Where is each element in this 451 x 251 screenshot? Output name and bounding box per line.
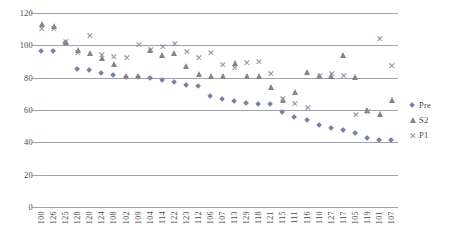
x-axis-tick-label: 116	[304, 211, 312, 224]
x-axis-tick-label: 110	[316, 211, 324, 224]
x-axis-tick-label: 100	[38, 211, 46, 224]
x-axis-tick-label: 109	[135, 211, 143, 224]
x-axis-tick-label: 107	[388, 211, 396, 224]
x-axis-tick-label: 114	[159, 211, 167, 224]
cross-marker	[219, 61, 227, 69]
gridline	[36, 45, 398, 46]
x-axis-tick-label: 118	[255, 211, 263, 224]
cross-marker	[195, 54, 203, 62]
triangle-marker	[340, 52, 346, 58]
x-axis-tick-label: 106	[207, 211, 215, 224]
diamond-marker	[219, 96, 225, 102]
triangle-marker	[111, 61, 117, 67]
diamond-marker	[409, 102, 415, 108]
cross-marker	[86, 32, 94, 40]
cross-marker	[159, 43, 167, 51]
cross-marker	[267, 70, 275, 78]
gridline	[36, 142, 398, 143]
triangle-marker	[208, 73, 214, 79]
cross-marker	[50, 25, 58, 33]
x-axis-tick-label: 125	[62, 211, 70, 224]
legend-item-p1[interactable]: P1	[408, 128, 451, 143]
x-axis-tick-label: 101	[376, 211, 384, 224]
scatter-chart: 020406080100120 100126125128120124108102…	[0, 0, 451, 251]
triangle-marker	[377, 111, 383, 117]
x-axis-tick-label: 102	[123, 211, 131, 224]
diamond-marker	[231, 98, 237, 104]
x-axis-tick-label: 111	[291, 211, 299, 224]
diamond-marker	[207, 93, 213, 99]
triangle-marker	[171, 50, 177, 56]
y-axis-tick-label: 0	[0, 203, 33, 212]
gridline	[36, 13, 398, 14]
diamond-marker	[38, 48, 44, 54]
triangle-marker	[304, 69, 310, 75]
cross-marker	[171, 40, 179, 48]
x-axis-tick-label: 126	[50, 211, 58, 224]
diamond-marker	[86, 67, 92, 73]
diamond-marker	[316, 122, 322, 128]
cross-marker	[98, 51, 106, 59]
legend-label: Pre	[419, 101, 431, 110]
cross-marker	[243, 59, 251, 67]
cross-marker	[38, 25, 46, 33]
cross-marker	[74, 49, 82, 57]
cross-marker	[207, 49, 215, 57]
y-axis-tick-label: 80	[0, 74, 33, 83]
x-axis-tick-label: 129	[243, 211, 251, 224]
triangle-marker	[123, 73, 129, 79]
x-axis-tick-label: 113	[231, 211, 239, 224]
diamond-marker	[243, 100, 249, 106]
chart-legend: PreS2P1	[408, 98, 451, 143]
diamond-marker	[292, 114, 298, 120]
triangle-marker	[159, 52, 165, 58]
cross-marker	[352, 111, 360, 119]
x-axis-tick-label: 105	[352, 211, 360, 224]
cross-marker	[183, 48, 191, 56]
x-axis-tick-label: 117	[340, 211, 348, 224]
cross-marker	[388, 62, 396, 70]
diamond-marker	[255, 101, 261, 107]
cross-marker	[291, 100, 299, 108]
y-axis-tick-label: 60	[0, 106, 33, 115]
triangle-marker	[292, 89, 298, 95]
triangle-marker	[352, 74, 358, 80]
triangle-marker	[135, 73, 141, 79]
diamond-marker	[408, 101, 419, 111]
gridline	[36, 110, 398, 111]
legend-label: P1	[419, 131, 428, 140]
triangle-marker	[389, 97, 395, 103]
cross-marker	[255, 58, 263, 66]
triangle-marker	[87, 50, 93, 56]
plot-area	[36, 13, 398, 207]
triangle-marker	[268, 84, 274, 90]
diamond-marker	[340, 127, 346, 133]
x-axis-tick-label: 121	[267, 211, 275, 224]
legend-item-pre[interactable]: Pre	[408, 98, 451, 113]
legend-item-s2[interactable]: S2	[408, 113, 451, 128]
diamond-marker	[98, 71, 104, 77]
diamond-marker	[50, 48, 56, 54]
diamond-marker	[328, 126, 334, 132]
y-axis-tick-label: 120	[0, 9, 33, 18]
cross-marker	[62, 38, 70, 46]
triangle-marker	[220, 73, 226, 79]
diamond-marker	[159, 77, 165, 83]
gridline	[36, 175, 398, 176]
diamond-marker	[74, 66, 80, 72]
y-axis-tick-label: 20	[0, 171, 33, 180]
x-axis-tick-label: 115	[279, 211, 287, 224]
diamond-marker	[352, 130, 358, 136]
x-axis-tick-label: 124	[98, 211, 106, 224]
diamond-marker	[364, 135, 370, 141]
diamond-marker	[171, 79, 177, 85]
cross-marker	[135, 41, 143, 49]
x-axis-tick-label: 123	[183, 211, 191, 224]
x-axis-tick-label: 112	[195, 211, 203, 224]
diamond-marker	[183, 82, 189, 88]
triangle-marker	[183, 63, 189, 69]
diamond-marker	[304, 117, 310, 123]
cross-marker	[364, 108, 372, 116]
y-axis-tick-label: 40	[0, 138, 33, 147]
cross-marker	[409, 132, 417, 140]
